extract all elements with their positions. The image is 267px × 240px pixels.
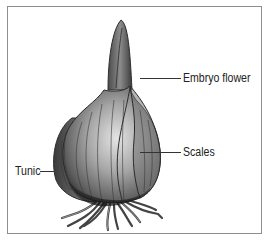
- label-tunic: Tunic: [15, 164, 40, 178]
- scales-leader: [140, 152, 181, 153]
- tulip-bulb-illustration: [0, 0, 267, 240]
- label-scales: Scales: [183, 145, 215, 159]
- embryo-flower-leader: [140, 78, 181, 79]
- label-embryo-flower: Embryo flower: [183, 71, 250, 85]
- tunic-leader: [40, 171, 54, 172]
- shoot-tip: [108, 20, 132, 90]
